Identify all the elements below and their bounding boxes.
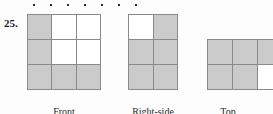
exercise-number: 25.	[4, 17, 18, 29]
grid-cell-shaded	[208, 40, 232, 64]
right-side-view-grid	[128, 14, 178, 90]
grid-cell-empty	[52, 15, 75, 39]
separator-dot	[50, 4, 52, 6]
grid-cell-empty	[77, 15, 100, 39]
grid-cell-shaded	[77, 65, 100, 89]
grid-cell-shaded	[129, 65, 153, 89]
top-view-grid	[207, 39, 273, 90]
grid-cell-shaded	[154, 65, 178, 89]
grid-cell-shaded	[233, 65, 257, 89]
right-side-view-label: Right-side	[110, 106, 196, 114]
grid-cell-empty	[258, 65, 273, 89]
grid-cell-shaded	[28, 65, 51, 89]
grid-cell-empty	[129, 15, 153, 39]
grid-cell-shaded	[233, 40, 257, 64]
dotted-separator-rule	[0, 0, 273, 12]
top-view-label: Top	[195, 106, 261, 114]
grid-cell-empty	[77, 40, 100, 64]
front-view-label: Front	[22, 106, 106, 114]
grid-cell-shaded	[208, 65, 232, 89]
grid-cell-empty	[52, 40, 75, 64]
separator-dot	[135, 4, 137, 6]
separator-dot	[67, 4, 69, 6]
grid-cell-shaded	[28, 15, 51, 39]
orthographic-view-top: Top	[207, 39, 273, 114]
grid-cell-shaded	[258, 40, 273, 64]
worksheet-page: 25. Front Right-side Top	[0, 0, 273, 114]
grid-cell-shaded	[154, 15, 178, 39]
separator-dot	[101, 4, 103, 6]
separator-dot	[33, 4, 35, 6]
grid-cell-shaded	[129, 40, 153, 64]
grid-cell-shaded	[28, 40, 51, 64]
grid-cell-shaded	[52, 65, 75, 89]
front-view-grid	[27, 14, 101, 90]
separator-dot	[118, 4, 120, 6]
orthographic-view-front: Front	[27, 14, 101, 114]
orthographic-view-right-side: Right-side	[128, 14, 178, 114]
separator-dot	[84, 4, 86, 6]
grid-cell-shaded	[154, 40, 178, 64]
